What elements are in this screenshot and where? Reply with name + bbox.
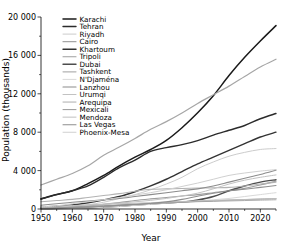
x-tick-label: 1970 (93, 214, 113, 223)
x-tick-label: 1990 (156, 214, 176, 223)
y-tick-label: 4 000 (13, 167, 36, 176)
y-tick-label: 20 000 (8, 13, 36, 22)
x-tick-label: 1960 (62, 214, 82, 223)
y-tick-label: 16 000 (8, 51, 36, 60)
chart-canvas: 04 0008 00012 00016 00020 000 1950196019… (0, 0, 281, 248)
x-tick-labels-group: 19501960197019801990200020102020 (31, 214, 271, 223)
x-tick-label: 2020 (250, 214, 270, 223)
x-tick-label: 2000 (187, 214, 207, 223)
series-line-karachi (41, 26, 276, 199)
y-tick-label: 8 000 (13, 128, 36, 137)
series-line-cairo (41, 59, 276, 185)
series-line-phoenix-mesa (41, 170, 276, 207)
x-tick-label: 2010 (219, 214, 239, 223)
x-axis-title: Year (140, 233, 160, 243)
population-line-chart-figure: 04 0008 00012 00016 00020 000 1950196019… (0, 0, 281, 248)
y-tick-label: 12 000 (8, 90, 36, 99)
legend-group: KarachiTehranRiyadhCairoKhartoumTripoliD… (63, 15, 129, 137)
legend-label-phoenix-mesa: Phoenix-Mesa (80, 128, 130, 137)
x-tick-label: 1950 (31, 214, 51, 223)
y-tick-labels-group: 04 0008 00012 00016 00020 000 (8, 13, 36, 214)
series-line-tashkent (41, 182, 276, 202)
y-axis-title: Population (thousands) (1, 58, 11, 162)
axes-group (41, 17, 276, 209)
series-line-khartoum (41, 132, 276, 207)
x-tick-label: 1980 (125, 214, 145, 223)
y-tick-label: 0 (31, 205, 36, 214)
